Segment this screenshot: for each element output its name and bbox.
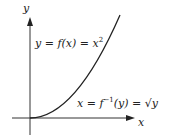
inverse-label-text: x = f [77,97,104,110]
y-axis-arrow-icon [27,17,33,26]
function-label-text: y = f(x) = x [35,37,99,50]
inverse-label-exponent: −1 [104,96,114,104]
inverse-label-rest: (y) = √y [114,97,158,110]
y-axis-label: y [23,3,29,14]
x-axis-arrow-icon [126,115,135,121]
function-label: y = f(x) = x2 [35,37,103,49]
x-axis-label: x [138,117,144,128]
inverse-function-label: x = f−1(y) = √y [77,97,158,109]
function-label-exponent: 2 [99,36,103,44]
